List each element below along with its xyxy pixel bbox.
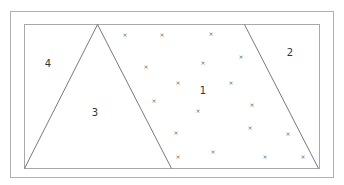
cross-mark-icon: ×: [238, 53, 243, 60]
cross-mark-icon: ×: [300, 153, 305, 160]
region-labels: 1234: [45, 47, 293, 118]
region-label-4: 4: [45, 58, 51, 69]
cross-mark-icon: ×: [249, 101, 254, 108]
cross-mark-icon: ×: [122, 31, 127, 38]
partition-diagram: ×××××××××××××××××× 1234: [0, 0, 344, 185]
outer-border: [11, 12, 334, 178]
cross-mark-icon: ×: [173, 129, 178, 136]
cross-mark-icon: ×: [175, 153, 180, 160]
region-label-3: 3: [92, 107, 98, 118]
cross-mark-icon: ×: [175, 79, 180, 86]
cross-mark-icon: ×: [285, 130, 290, 137]
triangle-right-edge: [98, 25, 172, 169]
cross-mark-icon: ×: [208, 30, 213, 37]
triangle-left-edge: [25, 25, 98, 169]
right-slant-line: [245, 25, 319, 169]
cross-mark-icon: ×: [143, 63, 148, 70]
cross-mark-icon: ×: [228, 79, 233, 86]
cross-mark-icon: ×: [151, 97, 156, 104]
inner-border: [25, 25, 320, 169]
cross-mark-icon: ×: [210, 148, 215, 155]
region-label-2: 2: [287, 47, 293, 58]
region-label-1: 1: [200, 85, 206, 96]
scatter-marks: ××××××××××××××××××: [122, 30, 305, 160]
cross-mark-icon: ×: [195, 107, 200, 114]
cross-mark-icon: ×: [262, 153, 267, 160]
partition-lines: [25, 25, 319, 169]
cross-mark-icon: ×: [200, 59, 205, 66]
cross-mark-icon: ×: [247, 124, 252, 131]
cross-mark-icon: ×: [159, 31, 164, 38]
